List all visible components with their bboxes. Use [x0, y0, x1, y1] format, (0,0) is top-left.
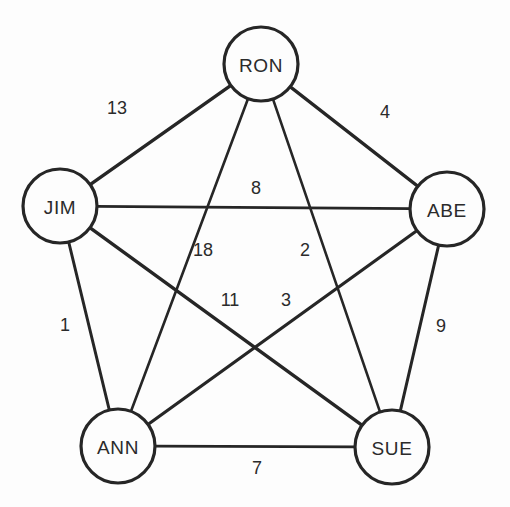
edges-layer — [68, 85, 438, 447]
edge-weight-ron-sue: 2 — [300, 240, 310, 260]
node-ann[interactable]: ANN — [81, 409, 155, 483]
edge-weight-jim-sue: 11 — [221, 290, 240, 310]
node-label-abe: ABE — [427, 200, 467, 221]
edge-weight-abe-ann: 3 — [281, 290, 291, 310]
edge-weight-jim-ron: 13 — [107, 98, 127, 118]
edge-jim-ann — [68, 241, 109, 411]
node-ron[interactable]: RON — [224, 27, 298, 101]
node-label-sue: SUE — [372, 438, 413, 459]
edge-ron-abe — [289, 86, 418, 187]
edge-ann-sue — [154, 446, 356, 447]
node-abe[interactable]: ABE — [410, 172, 484, 246]
node-sue[interactable]: SUE — [355, 410, 429, 484]
graph-svg: 1348182113197 RONJIMABEANNSUE — [0, 0, 510, 507]
edge-weight-ann-sue: 7 — [252, 458, 262, 478]
edge-weight-jim-abe: 8 — [251, 178, 261, 198]
node-jim[interactable]: JIM — [23, 169, 97, 243]
edge-abe-sue — [400, 244, 439, 412]
edge-weight-jim-ann: 1 — [60, 315, 70, 335]
edge-weight-ron-ann: 18 — [193, 240, 213, 260]
edge-weight-abe-sue: 9 — [436, 316, 446, 336]
node-label-ann: ANN — [97, 437, 139, 458]
edge-weight-ron-abe: 4 — [380, 102, 390, 122]
edge-jim-abe — [96, 206, 411, 208]
nodes-layer: RONJIMABEANNSUE — [23, 27, 484, 484]
node-label-ron: RON — [239, 55, 283, 76]
node-label-jim: JIM — [44, 197, 76, 218]
graph-diagram-canvas: 1348182113197 RONJIMABEANNSUE — [0, 0, 510, 507]
edge-jim-sue — [89, 227, 363, 426]
